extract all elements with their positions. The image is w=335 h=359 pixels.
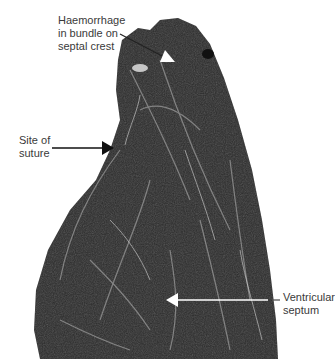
label-ventricular-septum: Ventricular septum [283,291,335,317]
label-site-of-suture: Site of suture [19,134,50,160]
label-haemorrhage: Haemorrhage in bundle on septal crest [58,14,125,53]
